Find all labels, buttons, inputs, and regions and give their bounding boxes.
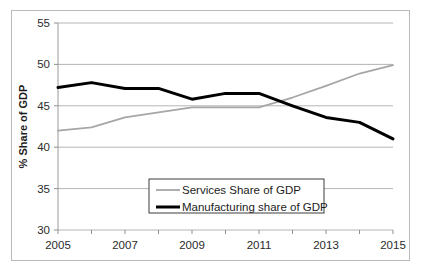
y-tick-marks-group bbox=[54, 23, 58, 230]
x-tick-label: 2011 bbox=[247, 239, 272, 251]
x-tick-label: 2009 bbox=[179, 239, 205, 251]
y-tick-label: 45 bbox=[37, 100, 50, 112]
x-tick-labels-group: 200520072009201120132015 bbox=[45, 239, 406, 251]
y-tick-label: 50 bbox=[37, 58, 50, 70]
y-tick-label: 35 bbox=[37, 183, 50, 195]
chart-frame: 303540455055 200520072009201120132015 Se… bbox=[11, 10, 410, 261]
y-tick-labels-group: 303540455055 bbox=[37, 17, 50, 236]
x-tick-label: 2005 bbox=[45, 239, 71, 251]
chart-container: 303540455055 200520072009201120132015 Se… bbox=[0, 0, 424, 268]
line-chart-plot: 303540455055 200520072009201120132015 Se… bbox=[12, 11, 409, 260]
x-tick-label: 2015 bbox=[380, 239, 406, 251]
chart-legend: Services Share of GDPManufacturing share… bbox=[149, 179, 328, 213]
legend-label-services: Services Share of GDP bbox=[182, 184, 301, 196]
y-tick-label: 40 bbox=[37, 141, 50, 153]
legend-label-manufacturing: Manufacturing share of GDP bbox=[182, 201, 328, 213]
y-tick-label: 30 bbox=[37, 224, 50, 236]
y-tick-label: 55 bbox=[37, 17, 50, 29]
x-tick-marks-group bbox=[58, 230, 393, 234]
data-series-group bbox=[58, 65, 393, 139]
x-tick-label: 2007 bbox=[112, 239, 138, 251]
series-line-manufacturing bbox=[58, 83, 393, 139]
y-axis-title: % Share of GDP bbox=[17, 85, 29, 169]
x-tick-label: 2013 bbox=[313, 239, 339, 251]
